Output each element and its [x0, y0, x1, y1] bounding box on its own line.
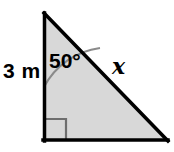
angle-measure-label: 50°	[49, 50, 81, 71]
figure-container: 3 m 50° x	[0, 0, 174, 152]
unknown-side-label: x	[112, 55, 125, 77]
side-length-label: 3 m	[3, 60, 41, 81]
